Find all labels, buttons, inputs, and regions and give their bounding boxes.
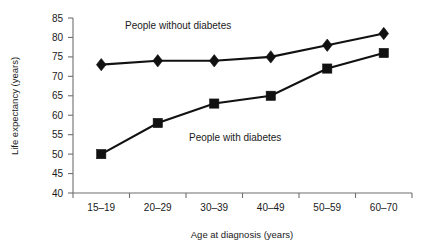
line-chart: 40455055606570758085 15–1920–2930–3940–4…: [0, 0, 430, 249]
x-tick-label: 15–19: [87, 202, 115, 213]
y-tick-label: 50: [52, 149, 64, 160]
y-tick-label: 80: [52, 32, 64, 43]
y-tick-label: 45: [52, 168, 64, 179]
x-axis-title: Age at diagnosis (years): [191, 229, 293, 240]
y-axis-title: Life expectancy (years): [9, 57, 20, 155]
y-tick-label: 40: [52, 188, 64, 199]
data-point-square: [153, 118, 162, 127]
data-point-square: [379, 48, 388, 57]
x-tick-label: 60–70: [370, 202, 398, 213]
y-tick-label: 60: [52, 110, 64, 121]
y-tick-label: 55: [52, 129, 64, 140]
y-tick-label: 70: [52, 71, 64, 82]
x-tick-label: 40–49: [257, 202, 285, 213]
y-tick-label: 75: [52, 51, 64, 62]
series-annotation-label: People with diabetes: [189, 132, 281, 143]
chart-container: 40455055606570758085 15–1920–2930–3940–4…: [0, 0, 430, 249]
data-point-square: [210, 99, 219, 108]
series-annotation-label: People without diabetes: [125, 20, 231, 31]
data-point-square: [97, 150, 106, 159]
y-tick-label: 65: [52, 90, 64, 101]
x-tick-label: 50–59: [313, 202, 341, 213]
data-point-square: [266, 91, 275, 100]
x-tick-label: 30–39: [200, 202, 228, 213]
data-point-square: [323, 64, 332, 73]
x-tick-label: 20–29: [144, 202, 172, 213]
y-tick-label: 85: [52, 13, 64, 24]
